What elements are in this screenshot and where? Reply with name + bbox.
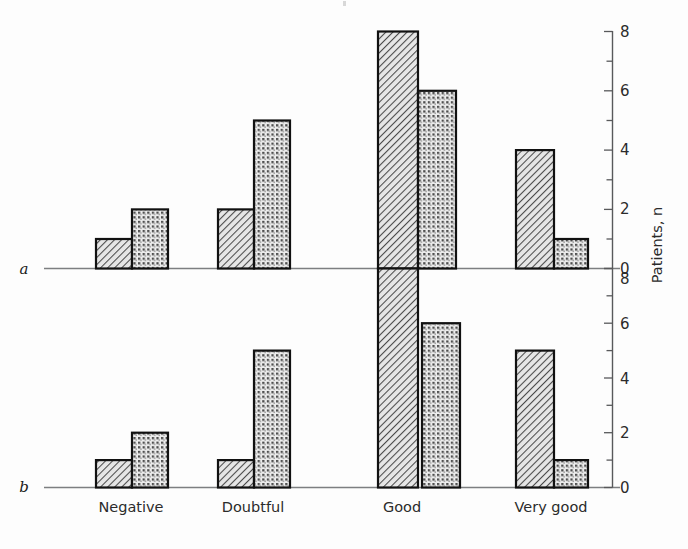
panel-b-tick-label-2: 2 <box>620 424 630 442</box>
panel-b-tick-label-8: 8 <box>620 270 630 288</box>
bar-a-negative-dotted[interactable] <box>132 209 168 268</box>
bar-b-good-hatched[interactable] <box>378 269 418 488</box>
bar-chart-svg: a 8 6 4 2 0 <box>0 0 688 549</box>
panel-a-tick-label-4: 4 <box>620 141 630 159</box>
panel-b-letter: b <box>19 478 29 496</box>
bar-b-doubtful-dotted[interactable] <box>254 351 290 488</box>
bar-a-very-good-hatched[interactable] <box>516 150 554 268</box>
bar-b-very-good-dotted[interactable] <box>554 460 588 487</box>
bar-a-doubtful-dotted[interactable] <box>254 121 290 269</box>
bar-b-good-dotted[interactable] <box>422 323 460 487</box>
figure-container: a 8 6 4 2 0 <box>0 0 688 549</box>
panel-a-tick-label-6: 6 <box>620 82 630 100</box>
bar-a-negative-hatched[interactable] <box>96 239 132 269</box>
bar-a-good-dotted[interactable] <box>418 91 456 269</box>
panel-b-tick-label-6: 6 <box>620 315 630 333</box>
cat-label-very-good: Very good <box>514 499 587 515</box>
cat-label-good: Good <box>383 499 421 515</box>
bar-b-negative-hatched[interactable] <box>96 460 132 487</box>
scan-artifact-speck <box>343 1 346 6</box>
bar-a-good-hatched[interactable] <box>378 32 418 269</box>
panel-b-tick-label-4: 4 <box>620 370 630 388</box>
bar-b-doubtful-hatched[interactable] <box>218 460 254 487</box>
cat-label-doubtful: Doubtful <box>222 499 284 515</box>
panel-b-tick-label-0: 0 <box>620 479 630 497</box>
panel-a-letter: a <box>20 260 29 278</box>
cat-label-negative: Negative <box>98 499 163 515</box>
panel-a-tick-label-2: 2 <box>620 200 630 218</box>
bar-b-very-good-hatched[interactable] <box>516 351 554 488</box>
bar-a-doubtful-hatched[interactable] <box>218 209 254 268</box>
y-axis-title: Patients, n <box>649 207 665 283</box>
bar-a-very-good-dotted[interactable] <box>554 239 588 269</box>
bar-b-negative-dotted[interactable] <box>132 433 168 488</box>
panel-a-tick-label-8: 8 <box>620 23 630 41</box>
